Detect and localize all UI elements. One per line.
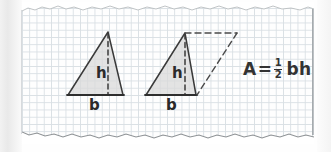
torn-bottom-edge (22, 128, 314, 144)
left-margin-shading (0, 0, 22, 152)
fraction-denominator: 2 (275, 70, 282, 80)
area-formula: A = 1 2 bh (243, 58, 312, 80)
torn-top-edge (22, 2, 314, 14)
formula-variable-a: A (243, 59, 257, 79)
fraction-numerator: 1 (275, 58, 282, 68)
triangle-right-base-label: b (166, 96, 177, 114)
formula-fraction-one-half: 1 2 (274, 58, 282, 80)
triangle-left-base-label: b (89, 96, 100, 114)
graph-paper-figure: h b h b A = 1 2 bh (0, 0, 331, 152)
triangle-left-height-label: h (96, 64, 107, 82)
sheet-left-edge (21, 10, 22, 134)
formula-equals-sign: = (258, 59, 273, 79)
formula-variables-bh: bh (286, 59, 311, 79)
sheet-right-edge (312, 9, 314, 135)
triangle-right-height-label: h (172, 64, 183, 82)
right-margin-shading (317, 0, 331, 152)
